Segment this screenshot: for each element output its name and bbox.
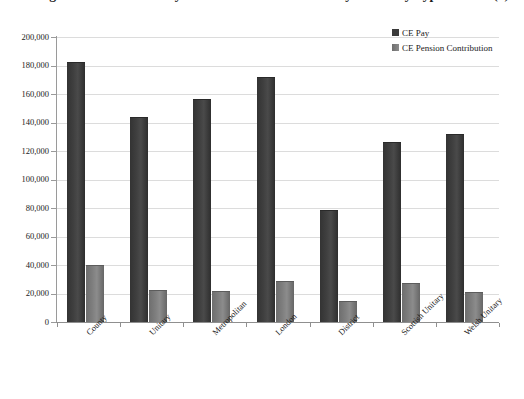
x-axis-tick [120, 323, 121, 327]
y-axis-tick [51, 151, 56, 152]
gridline [57, 66, 499, 67]
legend-swatch-icon-ce-pay [392, 29, 399, 36]
gridline [57, 151, 499, 152]
x-axis-tick [183, 323, 184, 327]
y-axis-tick-label: 40,000 [1, 261, 49, 270]
x-axis-tick [246, 323, 247, 327]
bar-ce-pay [130, 117, 148, 322]
gridline [57, 237, 499, 238]
y-axis-tick-label: 100,000 [1, 175, 49, 184]
plot-area [57, 37, 499, 322]
x-axis-line [56, 322, 499, 323]
y-axis-tick-label: 160,000 [1, 90, 49, 99]
gridline [57, 265, 499, 266]
y-axis-tick [51, 294, 56, 295]
chart-legend: CE Pay CE Pension Contribution [392, 26, 522, 56]
legend-label-ce-pension-contribution: CE Pension Contribution [402, 43, 493, 53]
bar-ce-pay [320, 210, 338, 322]
bar-chart: Average Chief Executive Pay and Pension … [0, 0, 524, 399]
x-axis-tick [373, 323, 374, 327]
y-axis-tick-label: 200,000 [1, 33, 49, 42]
legend-swatch-icon-ce-pension-contribution [392, 44, 399, 51]
y-axis-tick [51, 208, 56, 209]
gridline [57, 208, 499, 209]
x-axis-tick [57, 323, 58, 327]
gridline [57, 123, 499, 124]
y-axis-tick [51, 180, 56, 181]
gridline [57, 94, 499, 95]
x-axis-tick [436, 323, 437, 327]
y-axis-tick-label: 0 [1, 318, 49, 327]
legend-label-ce-pay: CE Pay [402, 28, 429, 38]
bar-ce-pay [446, 134, 464, 322]
bar-ce-pay [257, 77, 275, 322]
y-axis-tick [51, 237, 56, 238]
bar-ce-pay [67, 62, 85, 322]
legend-item-ce-pension-contribution: CE Pension Contribution [392, 41, 522, 54]
y-axis-tick-label: 80,000 [1, 204, 49, 213]
y-axis-tick-label: 180,000 [1, 61, 49, 70]
x-axis-tick [310, 323, 311, 327]
chart-title: Average Chief Executive Pay and Pension … [0, 0, 524, 3]
y-axis-tick [51, 265, 56, 266]
bar-ce-pay [383, 142, 401, 322]
y-axis-tick [51, 123, 56, 124]
y-axis-tick-labels: 200,000180,000160,000140,000120,000100,0… [0, 0, 49, 399]
bar-ce-pay [193, 99, 211, 322]
y-axis-tick [51, 322, 56, 323]
y-axis-tick-label: 120,000 [1, 147, 49, 156]
y-axis-tick [51, 37, 56, 38]
y-axis-tick-label: 140,000 [1, 118, 49, 127]
x-axis-tick [499, 323, 500, 327]
legend-item-ce-pay: CE Pay [392, 26, 522, 39]
y-axis-tick [51, 94, 56, 95]
gridline [57, 180, 499, 181]
y-axis-tick [51, 66, 56, 67]
y-axis-tick-label: 60,000 [1, 232, 49, 241]
y-axis-tick-label: 20,000 [1, 289, 49, 298]
